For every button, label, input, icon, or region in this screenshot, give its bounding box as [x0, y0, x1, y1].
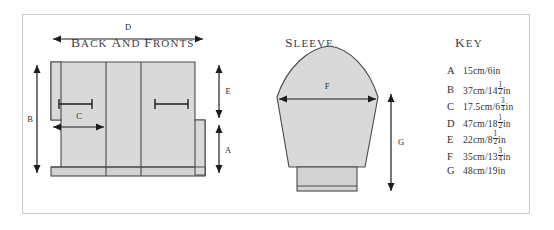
key-metric-value: 17.5cm/ [463, 102, 495, 112]
sleeve-shape [277, 46, 378, 167]
key-measurement: 22cm/812in [463, 131, 506, 146]
key-fraction: 34 [501, 98, 506, 113]
key-letter: G [447, 165, 463, 176]
key-row: D47cm/1812in [447, 115, 554, 132]
key-fraction: 12 [498, 115, 503, 130]
dimension-arrow-b: B [27, 65, 40, 173]
key-fraction: 34 [498, 148, 503, 163]
key-metric-value: 15cm/ [463, 66, 488, 76]
fraction-denominator: 2 [498, 123, 503, 130]
pattern-panel: BACK AND FRONTS SLEEVE KEY [22, 14, 530, 214]
key-unit: in [493, 66, 501, 76]
dimension-arrow-e: E [216, 65, 231, 118]
key-metric-value: 47cm/ [463, 119, 488, 129]
dimension-label-e: E [225, 86, 230, 96]
key-unit: in [503, 119, 511, 129]
key-unit: in [498, 166, 506, 176]
key-imperial-value: 19 [488, 166, 498, 176]
dimension-label-a: A [225, 145, 232, 155]
garment-left-extension [51, 62, 61, 120]
fraction-denominator: 2 [498, 89, 503, 96]
key-measurement: 35cm/1334in [463, 148, 511, 163]
key-measurement: 37cm/1412in [463, 82, 511, 97]
section-heading-key: KEY [455, 35, 483, 51]
dimension-arrow-g: G [388, 94, 405, 191]
key-letter: F [447, 151, 463, 162]
dimension-label-d: D [125, 22, 131, 32]
dimension-label-g: G [398, 137, 404, 147]
key-letter: B [447, 84, 463, 95]
dimension-label-c: C [76, 111, 82, 121]
key-letter: E [447, 134, 463, 145]
key-letter: C [447, 101, 463, 112]
key-imperial-value: 14 [488, 85, 498, 95]
garment-body-shape [51, 62, 205, 175]
fraction-denominator: 4 [498, 156, 503, 163]
dimension-label-f: F [325, 81, 330, 91]
key-metric-value: 22cm/ [463, 135, 488, 145]
dimension-label-b: B [27, 114, 33, 124]
dimension-arrow-a: A [216, 125, 232, 173]
key-letter: D [447, 118, 463, 129]
key-measurement: 47cm/1812in [463, 115, 511, 130]
key-imperial-value: 6 [495, 102, 500, 112]
key-list: A15cm/6inB37cm/1412inC17.5cm/634inD47cm/… [447, 65, 554, 181]
fraction-denominator: 4 [501, 106, 506, 113]
key-measurement: 48cm/19in [463, 166, 505, 176]
key-metric-value: 48cm/ [463, 166, 488, 176]
key-metric-value: 37cm/ [463, 85, 488, 95]
fraction-denominator: 2 [493, 139, 498, 146]
key-row: G48cm/19in [447, 165, 554, 182]
key-fraction: 12 [493, 131, 498, 146]
sleeve-cuff [297, 167, 357, 191]
key-measurement: 15cm/6in [463, 66, 501, 76]
key-unit: in [498, 135, 506, 145]
dimension-arrow-d: D [53, 22, 203, 43]
key-unit: in [506, 102, 514, 112]
heading-text-key: KEY [455, 37, 483, 49]
key-imperial-value: 18 [488, 119, 498, 129]
hem-strip [51, 167, 205, 176]
key-imperial-value: 8 [488, 135, 493, 145]
back-and-fronts-diagram: D B E A C [23, 15, 283, 215]
key-row: B37cm/1412in [447, 82, 554, 99]
key-row: C17.5cm/634in [447, 98, 554, 115]
key-row: A15cm/6in [447, 65, 554, 82]
key-imperial-value: 13 [488, 152, 498, 162]
key-row: F35cm/1334in [447, 148, 554, 165]
key-row: E22cm/812in [447, 131, 554, 148]
key-metric-value: 35cm/ [463, 152, 488, 162]
sleeve-diagram: F G [253, 15, 413, 215]
key-unit: in [503, 85, 511, 95]
key-unit: in [503, 152, 511, 162]
key-fraction: 12 [498, 82, 503, 97]
key-letter: A [447, 65, 463, 76]
key-measurement: 17.5cm/634in [463, 98, 513, 113]
